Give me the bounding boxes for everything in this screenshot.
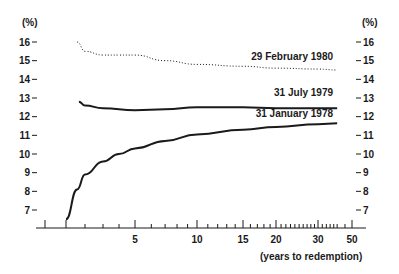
yield-curve-chart: (%) (%) 77889910101111121213131414151516… bbox=[0, 0, 399, 274]
y-tick-label-right: 15 bbox=[363, 55, 375, 66]
y-tick-label-right: 8 bbox=[363, 186, 369, 197]
series-line bbox=[66, 123, 337, 219]
y-tick-label-left: 9 bbox=[24, 167, 30, 178]
y-tick-label-left: 8 bbox=[24, 186, 30, 197]
y-tick-label-right: 16 bbox=[363, 37, 375, 48]
y-tick-label-left: 16 bbox=[19, 37, 31, 48]
x-tick-label: 30 bbox=[312, 234, 324, 245]
y-tick-label-right: 11 bbox=[363, 130, 374, 141]
x-tick-label: 5 bbox=[132, 234, 138, 245]
y-tick-label-left: 14 bbox=[19, 74, 31, 85]
x-minor-ticks bbox=[45, 220, 352, 228]
y-tick-label-left: 7 bbox=[24, 205, 30, 216]
y-tick-label-left: 11 bbox=[19, 130, 30, 141]
series-group bbox=[66, 42, 337, 219]
x-tick-label: 20 bbox=[270, 234, 282, 245]
series-label-jan-1978: 31 January 1978 bbox=[256, 108, 334, 119]
y-tick-label-left: 13 bbox=[19, 93, 31, 104]
x-tick-label: 50 bbox=[346, 234, 358, 245]
series-label-feb-1980: 29 February 1980 bbox=[251, 51, 333, 62]
x-axis-title: (years to redemption) bbox=[260, 251, 362, 262]
y-tick-label-right: 7 bbox=[363, 205, 369, 216]
x-tick-label: 10 bbox=[191, 234, 203, 245]
y-tick-label-left: 15 bbox=[19, 55, 31, 66]
y-axis-unit-right: (%) bbox=[362, 17, 378, 28]
y-tick-label-left: 10 bbox=[19, 149, 31, 160]
y-tick-label-left: 12 bbox=[19, 111, 31, 122]
y-tick-label-right: 12 bbox=[363, 111, 375, 122]
series-label-jul-1979: 31 July 1979 bbox=[274, 87, 333, 98]
y-tick-label-right: 13 bbox=[363, 93, 375, 104]
y-tick-label-right: 10 bbox=[363, 149, 375, 160]
x-tick-label: 15 bbox=[237, 234, 249, 245]
y-tick-label-right: 9 bbox=[363, 167, 369, 178]
x-ticks: 51015203050 bbox=[132, 234, 358, 245]
y-axis-unit-left: (%) bbox=[22, 17, 38, 28]
y-ticks: 7788991010111112121313141415151616 bbox=[19, 37, 375, 216]
y-tick-label-right: 14 bbox=[363, 74, 375, 85]
